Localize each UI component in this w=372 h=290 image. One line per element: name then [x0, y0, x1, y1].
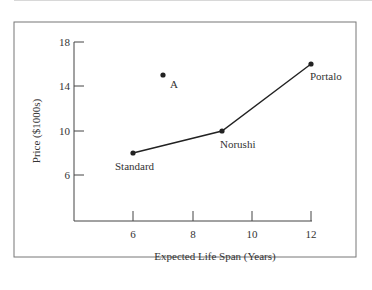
x-tick-12: 12 [306, 228, 317, 240]
x-axis-label: Expected Life Span (Years) [154, 250, 276, 263]
x-tick-10: 10 [247, 228, 259, 240]
point-norushi [219, 128, 224, 133]
x-tick-8: 8 [190, 228, 196, 240]
y-ticks [74, 42, 84, 175]
point-portalo [308, 61, 313, 66]
label-portalo: Portalo [310, 70, 342, 82]
point-a [160, 72, 165, 77]
y-axis-label: Price ($1000s) [30, 98, 43, 163]
y-tick-10: 10 [59, 125, 71, 137]
label-standard: Standard [115, 160, 155, 172]
label-norushi: Norushi [220, 138, 255, 150]
point-standard [130, 150, 135, 155]
x-ticks [133, 211, 311, 221]
y-tick-6: 6 [65, 169, 71, 181]
x-tick-6: 6 [130, 228, 136, 240]
y-tick-14: 14 [59, 80, 71, 92]
y-tick-18: 18 [59, 36, 71, 48]
label-a: A [170, 78, 178, 90]
chart: 18 14 10 6 Price ($1000s) 6 8 10 12 Expe… [0, 0, 372, 290]
